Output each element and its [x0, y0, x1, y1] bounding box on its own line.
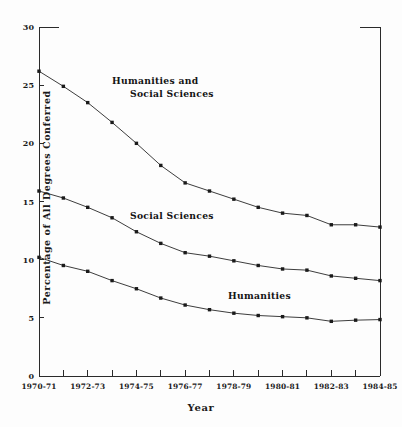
data-point-marker [110, 121, 113, 124]
data-point-marker [330, 274, 333, 277]
annotation-line: Social Sciences [130, 88, 214, 99]
chart-container: Percentage of All Degrees Conferred 0510… [0, 0, 402, 427]
series-line [39, 257, 380, 321]
x-tick-label: 1976-77 [168, 382, 203, 391]
data-point-marker [135, 230, 138, 233]
data-point-marker [378, 279, 381, 282]
line-chart-plot: 051015202530 1970-711972-731974-751976-7… [0, 0, 402, 427]
data-point-marker [37, 189, 40, 192]
data-point-marker [281, 315, 284, 318]
annotation-line: Humanities [228, 290, 291, 301]
data-point-marker [354, 318, 357, 321]
y-tick-label: 0 [28, 371, 34, 381]
series-humanities [37, 256, 381, 323]
y-tick-label: 5 [28, 313, 34, 323]
x-tick-label: 1984-85 [363, 382, 398, 391]
data-point-marker [86, 270, 89, 273]
annotation-line: Humanities and [112, 75, 199, 86]
data-point-marker [330, 320, 333, 323]
series-social-sciences [37, 189, 381, 282]
data-point-marker [305, 268, 308, 271]
data-point-marker [135, 287, 138, 290]
data-point-marker [183, 303, 186, 306]
data-point-marker [37, 70, 40, 73]
x-tick-label: 1970-71 [22, 382, 57, 391]
data-point-marker [378, 225, 381, 228]
data-point-marker [135, 142, 138, 145]
ann-humanities-and-social-sciences: Humanities andSocial Sciences [112, 75, 214, 99]
x-tick-label: 1982-83 [314, 382, 349, 391]
data-point-marker [305, 316, 308, 319]
data-point-marker [305, 214, 308, 217]
data-point-marker [232, 311, 235, 314]
data-point-marker [110, 279, 113, 282]
data-point-marker [257, 264, 260, 267]
ann-humanities: Humanities [228, 290, 291, 301]
data-point-marker [257, 314, 260, 317]
data-point-marker [281, 211, 284, 214]
y-tick-label: 15 [23, 197, 34, 207]
x-tick-label: 1980-81 [265, 382, 300, 391]
data-point-marker [86, 206, 89, 209]
data-point-marker [86, 101, 89, 104]
data-point-marker [330, 223, 333, 226]
data-point-marker [183, 251, 186, 254]
data-point-marker [354, 223, 357, 226]
data-point-marker [378, 318, 381, 321]
x-tick-label: 1978-79 [216, 382, 251, 391]
series-line [39, 191, 380, 281]
data-point-marker [62, 196, 65, 199]
data-point-marker [208, 189, 211, 192]
data-point-marker [281, 267, 284, 270]
y-tick-label: 30 [23, 22, 35, 32]
y-tick-label: 25 [23, 80, 34, 90]
y-tick-label: 20 [23, 138, 35, 148]
data-point-marker [208, 254, 211, 257]
data-point-marker [183, 181, 186, 184]
data-point-marker [159, 296, 162, 299]
x-tick-label: 1972-73 [70, 382, 105, 391]
data-point-marker [232, 259, 235, 262]
data-point-marker [62, 264, 65, 267]
x-axis-ticks: 1970-711972-731974-751976-771978-791980-… [22, 370, 398, 391]
data-point-marker [159, 242, 162, 245]
y-axis-ticks: 051015202530 [23, 22, 44, 381]
data-point-marker [208, 308, 211, 311]
data-point-marker [257, 206, 260, 209]
data-point-marker [37, 256, 40, 259]
x-axis-title: Year [0, 402, 402, 413]
data-point-marker [159, 164, 162, 167]
ann-social-sciences: Social Sciences [130, 210, 214, 221]
data-series-group [37, 70, 381, 324]
data-point-marker [232, 197, 235, 200]
data-point-marker [62, 85, 65, 88]
data-point-marker [354, 277, 357, 280]
y-tick-label: 10 [23, 255, 35, 265]
axes-group [39, 27, 380, 376]
annotation-line: Social Sciences [130, 210, 214, 221]
x-tick-label: 1974-75 [119, 382, 154, 391]
data-point-marker [110, 216, 113, 219]
